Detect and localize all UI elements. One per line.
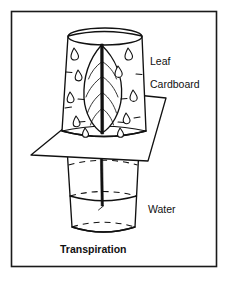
droplet-streak — [136, 74, 142, 75]
label-water: Water — [148, 203, 176, 215]
label-cardboard: Cardboard — [150, 78, 200, 90]
label-leaf: Leaf — [150, 55, 171, 67]
droplet-streak — [118, 122, 124, 123]
stem-lower-shaft — [100, 152, 103, 206]
droplet-streak — [78, 99, 84, 100]
transpiration-figure: Leaf Cardboard Water Transpiration — [0, 0, 229, 285]
droplet-streak — [79, 122, 85, 123]
diagram-canvas: Leaf Cardboard Water Transpiration — [0, 0, 229, 285]
droplet-streak — [66, 72, 72, 73]
leaf-midrib — [101, 44, 104, 134]
droplet-streak — [121, 99, 127, 100]
figure-caption: Transpiration — [60, 243, 127, 255]
